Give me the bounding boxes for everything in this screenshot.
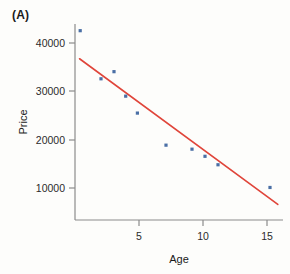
y-tick-label-20000: 20000 <box>36 134 65 146</box>
data-point <box>79 29 82 32</box>
x-tick-label-15: 15 <box>261 230 273 242</box>
regression-line <box>80 59 278 205</box>
data-point <box>190 148 193 151</box>
x-tick-label-10: 10 <box>197 230 209 242</box>
y-tick-label-10000: 10000 <box>36 182 65 194</box>
x-axis-title: Age <box>169 253 189 265</box>
scatter-plot: 40000 30000 20000 10000 5 10 15 Age Pric… <box>0 0 290 274</box>
y-axis-ticks: 40000 30000 20000 10000 <box>36 37 75 194</box>
x-axis-ticks: 5 10 15 <box>136 220 273 242</box>
y-tick-label-30000: 30000 <box>36 85 65 97</box>
data-point <box>136 111 139 114</box>
data-point <box>203 155 206 158</box>
data-point <box>112 70 115 73</box>
data-point <box>268 186 271 189</box>
data-point <box>124 95 127 98</box>
data-point <box>99 77 102 80</box>
y-tick-label-40000: 40000 <box>36 37 65 49</box>
x-tick-label-5: 5 <box>136 230 142 242</box>
scatter-points <box>79 29 272 189</box>
y-axis-title: Price <box>17 109 29 134</box>
data-point <box>216 163 219 166</box>
data-point <box>164 144 167 147</box>
figure-panel: (A) 40000 30000 20000 10000 5 10 15 Age … <box>0 0 290 274</box>
